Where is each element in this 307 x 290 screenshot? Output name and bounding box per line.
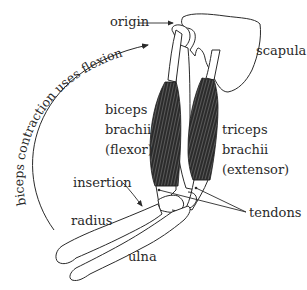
biceps-muscle: [150, 82, 181, 186]
label-scapula: scapula: [256, 42, 306, 59]
label-ulna: ulna: [128, 248, 157, 265]
label-triceps-line3: (extensor): [222, 160, 289, 180]
arm-flexion-diagram: biceps contraction uses flexion: [0, 0, 307, 290]
label-insertion: insertion: [73, 174, 132, 191]
label-triceps-line2: brachii: [222, 140, 289, 160]
label-biceps-line1: biceps: [105, 100, 153, 120]
triceps-muscle: [188, 78, 218, 180]
label-biceps: biceps brachii (flexor): [105, 100, 153, 160]
label-origin: origin: [110, 13, 149, 30]
scapula-bone: [182, 14, 261, 92]
tendon-pointer-2: [196, 188, 246, 212]
label-radius: radius: [71, 212, 113, 229]
label-triceps-line1: triceps: [222, 120, 289, 140]
label-triceps: triceps brachii (extensor): [222, 120, 289, 180]
label-biceps-line2: brachii: [105, 120, 153, 140]
label-tendons: tendons: [249, 204, 301, 221]
label-biceps-line3: (flexor): [105, 140, 153, 160]
